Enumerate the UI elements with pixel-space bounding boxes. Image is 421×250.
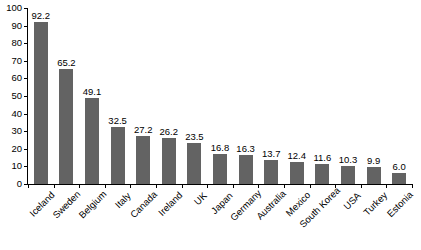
- x-axis-label: Turkey: [381, 190, 389, 198]
- bar-value-label: 16.3: [236, 144, 255, 154]
- y-axis-tick-label: 100: [6, 2, 22, 13]
- x-axis-tick-mark: [386, 184, 387, 188]
- bar[interactable]: [111, 127, 125, 184]
- bar-value-label: 92.2: [32, 11, 51, 21]
- x-axis-tick-mark: [182, 184, 183, 188]
- bar-value-label: 6.0: [393, 162, 406, 172]
- x-axis-label: Estonia: [406, 190, 414, 198]
- y-axis-tick-label: 60: [11, 72, 22, 83]
- y-axis-tick-label: 50: [11, 90, 22, 101]
- plot-area: 92.265.249.132.527.226.223.516.816.313.7…: [28, 8, 412, 184]
- y-axis-tick-label: 80: [11, 37, 22, 48]
- y-axis-tick-label: 10: [11, 160, 22, 171]
- x-axis-tick-label: Estonia: [385, 189, 415, 219]
- x-axis-tick-label: USA: [341, 190, 363, 212]
- x-axis-tick-label: Italy: [112, 190, 132, 210]
- x-axis-label: Germany: [253, 190, 261, 198]
- y-axis-tick-label: 0: [17, 178, 22, 189]
- bar-value-label: 26.2: [160, 127, 179, 137]
- bar-chart: 0102030405060708090100 92.265.249.132.52…: [0, 0, 421, 250]
- bar-slot: 49.1: [85, 8, 99, 184]
- bar[interactable]: [341, 166, 355, 184]
- bar[interactable]: [290, 162, 304, 184]
- x-axis-tick-label: Ireland: [156, 189, 184, 217]
- bar-slot: 26.2: [162, 8, 176, 184]
- bar[interactable]: [239, 155, 253, 184]
- x-axis-tick-mark: [105, 184, 106, 188]
- y-axis-tick-label: 70: [11, 55, 22, 66]
- bar[interactable]: [315, 164, 329, 184]
- x-axis-label: Mexico: [304, 190, 312, 198]
- bar-slot: 13.7: [264, 8, 278, 184]
- x-axis-tick-mark: [28, 184, 29, 188]
- x-axis-tick-mark: [284, 184, 285, 188]
- bar[interactable]: [162, 138, 176, 184]
- bar[interactable]: [213, 154, 227, 184]
- x-axis-tick-mark: [361, 184, 362, 188]
- bar-slot: 65.2: [59, 8, 73, 184]
- x-axis-tick-label: UK: [192, 190, 209, 207]
- bar-slot: 27.2: [136, 8, 150, 184]
- x-axis-label: South Korea: [329, 190, 337, 198]
- bar-slot: 23.5: [187, 8, 201, 184]
- bar-slot: 16.3: [239, 8, 253, 184]
- bar-value-label: 13.7: [262, 149, 281, 159]
- x-axis-tick-mark: [258, 184, 259, 188]
- x-axis-tick-mark: [54, 184, 55, 188]
- bar[interactable]: [59, 69, 73, 184]
- x-axis-tick-mark: [233, 184, 234, 188]
- x-axis-label: Sweden: [73, 190, 81, 198]
- bar-slot: 92.2: [34, 8, 48, 184]
- x-axis-tick-label: Sweden: [51, 188, 83, 220]
- x-axis-tick-mark: [156, 184, 157, 188]
- bar-value-label: 32.5: [108, 116, 127, 126]
- y-axis-tick-label: 40: [11, 108, 22, 119]
- bar[interactable]: [187, 143, 201, 184]
- bar-slot: 12.4: [290, 8, 304, 184]
- bar-slot: 10.3: [341, 8, 355, 184]
- bar-value-label: 49.1: [83, 87, 102, 97]
- bar-slot: 11.6: [315, 8, 329, 184]
- x-axis-label: Canada: [150, 190, 158, 198]
- bar-value-label: 23.5: [185, 132, 204, 142]
- bar-value-label: 65.2: [57, 58, 76, 68]
- x-axis-tick-label: Canada: [128, 189, 159, 220]
- x-axis-label: USA: [355, 190, 363, 198]
- x-axis-label: Japan: [227, 190, 235, 198]
- x-axis-line: [27, 184, 412, 185]
- bar-value-label: 11.6: [313, 153, 331, 163]
- bar-slot: 6.0: [392, 8, 406, 184]
- bar-value-label: 10.3: [339, 155, 358, 165]
- x-axis-tick-mark: [412, 184, 413, 188]
- bar[interactable]: [264, 160, 278, 184]
- bar[interactable]: [136, 136, 150, 184]
- x-axis-label: Australia: [278, 190, 286, 198]
- x-axis-label: Italy: [125, 190, 133, 198]
- bar[interactable]: [34, 22, 48, 184]
- bar-value-label: 27.2: [134, 125, 153, 135]
- x-axis-tick-label: Belgium: [76, 188, 108, 220]
- x-axis-tick-mark: [310, 184, 311, 188]
- bar-value-label: 16.8: [211, 143, 230, 153]
- bar[interactable]: [85, 98, 99, 184]
- bar-slot: 9.9: [367, 8, 381, 184]
- x-axis-tick-mark: [79, 184, 80, 188]
- y-axis-tick-label: 30: [11, 125, 22, 136]
- y-axis-tick-label: 20: [11, 143, 22, 154]
- x-axis-label: UK: [201, 190, 209, 198]
- x-axis-tick-label: Turkey: [361, 190, 389, 218]
- y-axis-tick-label: 90: [11, 20, 22, 31]
- x-axis-tick-mark: [130, 184, 131, 188]
- bar[interactable]: [392, 173, 406, 184]
- x-axis-label: Ireland: [176, 190, 184, 198]
- x-axis-label: Belgium: [99, 190, 107, 198]
- bar-value-label: 9.9: [367, 156, 380, 166]
- x-axis-label: Iceland: [48, 190, 56, 198]
- bar-slot: 16.8: [213, 8, 227, 184]
- bar-slot: 32.5: [111, 8, 125, 184]
- bar-value-label: 12.4: [288, 151, 307, 161]
- x-axis-tick-mark: [207, 184, 208, 188]
- bar[interactable]: [367, 167, 381, 184]
